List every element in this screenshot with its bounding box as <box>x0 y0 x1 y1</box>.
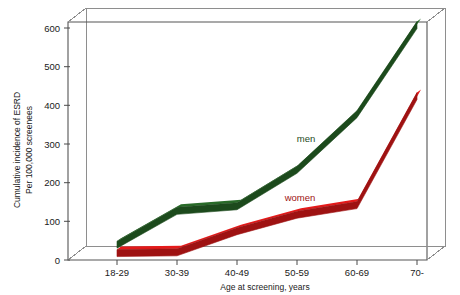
x-axis-ticks <box>117 260 417 265</box>
x-tick-label-50-59: 50-59 <box>285 267 309 278</box>
x-tick-label-30-39: 30-39 <box>165 267 189 278</box>
y-axis-title: Cumulative incidence of ESRD Per 100,000… <box>12 92 34 208</box>
x-axis-tick-labels: 18-29 30-39 40-49 50-59 60-69 70- <box>105 267 424 278</box>
chart-canvas: 0 100 200 300 400 500 600 Cumulative inc… <box>0 0 460 295</box>
x-tick-label-40-49: 40-49 <box>225 267 249 278</box>
series-label-men: men <box>297 133 315 144</box>
data-series-layer <box>117 19 421 257</box>
y-axis-title-line1: Cumulative incidence of ESRD <box>12 92 22 208</box>
series-label-women: women <box>284 192 316 203</box>
frame-edge-bottom-left <box>68 246 86 260</box>
x-tick-label-18-29: 18-29 <box>105 267 129 278</box>
x-axis-title: Age at screening, years <box>220 282 309 292</box>
y-tick-label-400: 400 <box>44 100 60 111</box>
ribbon-front-face-women <box>117 93 417 257</box>
y-tick-label-600: 600 <box>44 23 60 34</box>
y-tick-label-100: 100 <box>44 216 60 227</box>
frame-edge-top-left <box>68 8 86 22</box>
frame-back-panel <box>86 8 445 246</box>
chart-figure: 0 100 200 300 400 500 600 Cumulative inc… <box>0 0 460 295</box>
x-tick-label-70-: 70- <box>410 267 424 278</box>
y-axis-ticks <box>64 28 70 260</box>
y-axis-tick-labels: 0 100 200 300 400 500 600 <box>44 23 60 266</box>
y-tick-label-500: 500 <box>44 61 60 72</box>
ribbon-front-face-men <box>117 22 417 249</box>
y-tick-label-300: 300 <box>44 139 60 150</box>
y-tick-label-0: 0 <box>55 255 60 266</box>
frame-edge-top-right <box>427 8 445 22</box>
series-ribbon-women <box>117 90 421 257</box>
ribbon-top-face-men <box>117 19 421 242</box>
y-tick-label-200: 200 <box>44 177 60 188</box>
series-ribbon-men <box>117 19 421 249</box>
y-axis-title-line2: Per 100,000 screenees <box>24 106 34 194</box>
x-tick-label-60-69: 60-69 <box>345 267 369 278</box>
frame-edge-bottom-right <box>427 246 445 260</box>
